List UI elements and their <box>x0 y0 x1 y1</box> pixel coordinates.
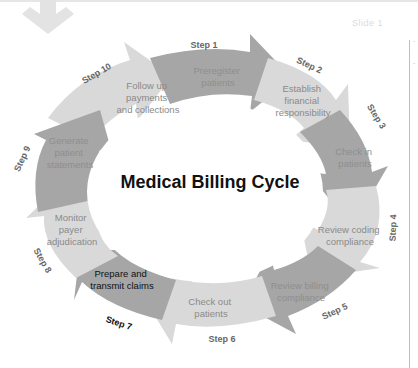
step-9-number: Step 9 <box>12 144 32 173</box>
step-5-number: Step 5 <box>320 301 349 321</box>
diagram-title: Medical Billing Cycle <box>100 172 320 193</box>
step-7-number: Step 7 <box>105 314 134 332</box>
step-3-number: Step 3 <box>365 102 388 130</box>
step-6-number: Step 6 <box>208 334 235 344</box>
step-1-number: Step 1 <box>190 40 217 50</box>
step-7-label: Prepare and transmit claims <box>90 268 154 291</box>
step-4-number: Step 4 <box>388 214 399 241</box>
step-6-label: Check out patients <box>188 296 233 319</box>
step-4-label: Review coding compliance <box>318 224 382 247</box>
step-8-number: Step 8 <box>32 246 54 274</box>
step-5-label: Review billing compliance <box>271 280 332 303</box>
arrow-down-icon <box>22 0 74 34</box>
step-3-label: Check in patients <box>335 146 375 169</box>
